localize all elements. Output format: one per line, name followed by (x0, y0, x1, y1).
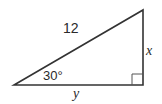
horizontal-leg-label: y (71, 86, 80, 101)
vertical-leg-label: x (145, 43, 153, 58)
right-angle-marker (132, 74, 143, 85)
angle-label: 30° (43, 68, 63, 83)
hypotenuse-label: 12 (63, 20, 79, 36)
right-triangle-diagram: 12 x 30° y (0, 0, 162, 104)
